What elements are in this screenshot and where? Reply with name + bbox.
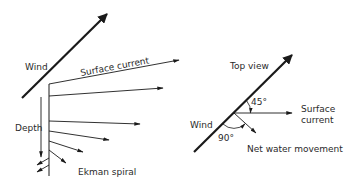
spiral-arrow-icon	[49, 121, 140, 124]
top-view-label: Top view	[229, 61, 269, 71]
wind-arrow-icon	[22, 14, 107, 98]
angle-45-arc-icon	[247, 101, 251, 114]
angle-90-label: 90°	[218, 133, 234, 143]
surface-current-label: Surface current	[80, 55, 151, 78]
angle-45-label: 45°	[251, 97, 267, 107]
right-panel: Top view Wind Surface current 45° 90° Ne…	[190, 55, 343, 154]
wind-label: Wind	[190, 120, 213, 130]
spiral-arrow-icon	[37, 158, 49, 165]
spiral-arrow-icon	[49, 131, 109, 140]
net-water-movement-arrow-icon	[234, 113, 256, 133]
wind-label: Wind	[25, 62, 48, 72]
spiral-arrow-icon	[49, 150, 66, 163]
depth-label: Depth	[15, 123, 42, 133]
surface-current-label-line1: Surface	[301, 104, 336, 114]
spiral-arrow-icon	[49, 88, 163, 96]
ekman-diagram: Wind Surface current Depth Ekman spiral …	[0, 0, 347, 190]
net-water-movement-label: Net water movement	[247, 144, 343, 154]
ekman-spiral-caption: Ekman spiral	[78, 167, 136, 177]
spiral-arrow-icon	[49, 141, 83, 152]
left-panel: Wind Surface current Depth Ekman spiral	[15, 14, 179, 177]
angle-90-arc-icon	[223, 124, 245, 128]
spiral-arrow-icon	[37, 165, 49, 172]
surface-current-label-line2: current	[301, 115, 334, 125]
